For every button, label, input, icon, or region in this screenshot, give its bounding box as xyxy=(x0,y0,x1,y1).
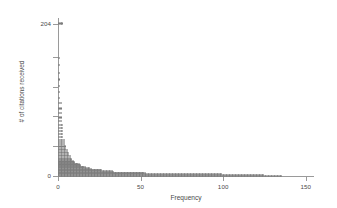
data-point-dot xyxy=(60,107,62,109)
data-point-dot xyxy=(61,127,63,129)
dot-row xyxy=(58,124,63,127)
dot-row xyxy=(58,72,60,75)
data-point-dot xyxy=(60,112,62,114)
dot-row xyxy=(58,102,62,105)
data-point-dot xyxy=(61,124,63,126)
dot-row xyxy=(58,85,60,88)
dot-row xyxy=(58,64,60,67)
data-point-dot xyxy=(63,139,65,141)
x-tick-label: 100 xyxy=(211,183,235,190)
data-point-dot xyxy=(60,116,62,118)
dot-row xyxy=(58,57,60,60)
data-point-dot xyxy=(280,175,282,177)
dot-row xyxy=(58,116,62,119)
data-point-dot xyxy=(61,133,63,135)
data-point-dot xyxy=(76,163,78,165)
data-point-dot xyxy=(142,172,144,174)
x-tick-mark xyxy=(306,176,307,181)
data-point-dot xyxy=(58,57,60,59)
dot-row xyxy=(58,78,60,81)
data-point-dot xyxy=(61,130,63,132)
dot-row xyxy=(58,112,62,115)
data-point-dot xyxy=(262,174,264,176)
data-point-dot xyxy=(58,72,60,74)
data-point-dot xyxy=(111,170,113,172)
data-point-dot xyxy=(58,64,60,66)
data-point-dot xyxy=(61,22,63,24)
data-point-dot xyxy=(220,173,222,175)
dot-row xyxy=(58,22,63,25)
x-axis-title: Frequency xyxy=(58,194,314,201)
data-point-dot xyxy=(58,78,60,80)
y-tick-label: 0 xyxy=(20,172,51,179)
plot-area xyxy=(58,18,314,176)
data-point-dot xyxy=(61,136,63,138)
x-tick-label: 150 xyxy=(294,183,318,190)
data-point-dot xyxy=(60,120,62,122)
x-tick-label: 50 xyxy=(129,183,153,190)
dot-row xyxy=(58,136,63,139)
dot-row xyxy=(58,130,63,133)
data-point-dot xyxy=(99,169,101,171)
data-point-dot xyxy=(60,102,62,104)
y-axis-title: # of citations received xyxy=(18,32,25,152)
data-point-dot xyxy=(58,91,60,93)
dot-row xyxy=(58,133,63,136)
dot-row xyxy=(58,91,60,94)
y-tick-label: 204 xyxy=(20,20,51,27)
dot-plot-figure: 0204050100150 # of citations received Fr… xyxy=(0,0,337,208)
x-tick-label: 0 xyxy=(46,183,70,190)
data-point-dot xyxy=(88,167,90,169)
data-point-dot xyxy=(82,166,84,168)
dot-row xyxy=(58,107,62,110)
dot-row xyxy=(58,120,62,123)
dot-row xyxy=(58,139,65,142)
dot-row xyxy=(58,97,60,100)
data-point-dot xyxy=(58,97,60,99)
data-point-dot xyxy=(58,85,60,87)
dot-row xyxy=(58,127,63,130)
